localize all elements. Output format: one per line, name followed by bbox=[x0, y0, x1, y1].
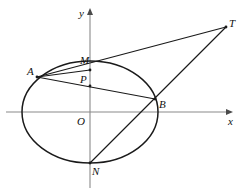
point-marker-N bbox=[89, 162, 92, 165]
point-label-T: T bbox=[229, 18, 235, 29]
x-axis-label: x bbox=[228, 116, 233, 127]
point-label-P: P bbox=[80, 74, 87, 85]
point-label-M: M bbox=[80, 55, 89, 66]
point-label-O: O bbox=[77, 116, 85, 127]
y-axis-label: y bbox=[79, 8, 84, 19]
point-marker-B bbox=[154, 98, 157, 101]
segment-A-T bbox=[37, 27, 226, 77]
point-marker-A bbox=[36, 76, 39, 79]
point-marker-M bbox=[89, 69, 92, 72]
segment-A-B bbox=[37, 77, 155, 99]
point-label-N: N bbox=[92, 166, 99, 177]
geometry-figure: y x A B M N O P T bbox=[0, 0, 245, 195]
point-label-B: B bbox=[159, 99, 166, 110]
segments-group bbox=[37, 27, 226, 163]
segment-N-T bbox=[90, 27, 226, 163]
figure-canvas bbox=[0, 0, 245, 195]
point-marker-P bbox=[89, 85, 92, 88]
point-marker-T bbox=[225, 26, 228, 29]
axes-group bbox=[6, 8, 233, 188]
point-label-A: A bbox=[27, 66, 34, 77]
y-axis-arrow-icon bbox=[87, 8, 93, 15]
